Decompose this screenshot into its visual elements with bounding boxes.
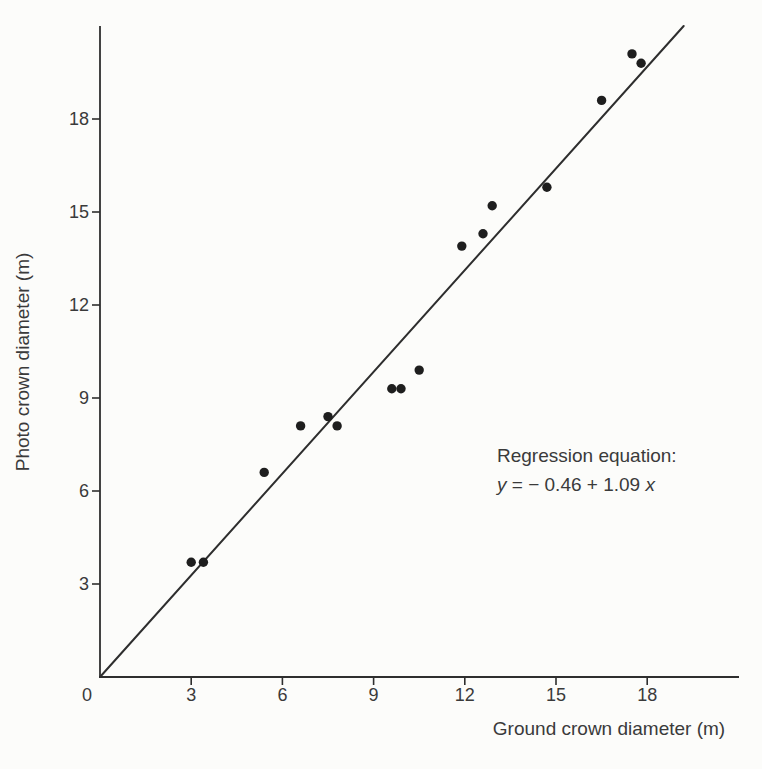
data-point bbox=[332, 421, 341, 430]
x-axis: 369121518 0 Ground crown diameter (m) bbox=[82, 677, 739, 739]
regression-line bbox=[100, 26, 684, 677]
regression-equation: y = − 0.46 + 1.09 x bbox=[495, 474, 656, 495]
scatter-plot: 369121518 Photo crown diameter (m) 36912… bbox=[0, 0, 762, 769]
x-tick-label: 6 bbox=[277, 685, 287, 705]
figure-page: 369121518 Photo crown diameter (m) 36912… bbox=[0, 0, 762, 769]
data-point bbox=[636, 59, 645, 68]
x-tick-label: 3 bbox=[186, 685, 196, 705]
x-tick-label: 18 bbox=[637, 685, 657, 705]
equation-x-var: x bbox=[644, 474, 656, 495]
data-point bbox=[296, 421, 305, 430]
data-point bbox=[415, 365, 424, 374]
regression-annotation: Regression equation: y = − 0.46 + 1.09 x bbox=[495, 445, 677, 495]
data-point bbox=[323, 412, 332, 421]
y-tick-label: 3 bbox=[79, 574, 89, 594]
x-axis-title: Ground crown diameter (m) bbox=[493, 718, 725, 739]
regression-annotation-title: Regression equation: bbox=[497, 445, 677, 466]
y-tick-label: 6 bbox=[79, 481, 89, 501]
data-point bbox=[199, 558, 208, 567]
y-tick-label: 9 bbox=[79, 388, 89, 408]
x-tick-label: 12 bbox=[455, 685, 475, 705]
y-tick-label: 15 bbox=[69, 202, 89, 222]
y-ticks: 369121518 bbox=[69, 109, 100, 594]
equation-y-var: y bbox=[495, 474, 508, 495]
origin-tick-label: 0 bbox=[82, 685, 92, 705]
y-axis-title: Photo crown diameter (m) bbox=[12, 253, 33, 472]
x-tick-label: 15 bbox=[546, 685, 566, 705]
data-point bbox=[488, 201, 497, 210]
x-tick-label: 9 bbox=[369, 685, 379, 705]
data-point bbox=[187, 558, 196, 567]
data-point bbox=[457, 241, 466, 250]
data-point bbox=[478, 229, 487, 238]
data-point bbox=[396, 384, 405, 393]
x-ticks: 369121518 bbox=[186, 677, 657, 705]
data-point bbox=[260, 468, 269, 477]
data-point bbox=[542, 183, 551, 192]
y-tick-label: 18 bbox=[69, 109, 89, 129]
equation-middle: = − 0.46 + 1.09 bbox=[512, 474, 640, 495]
data-point bbox=[597, 96, 606, 105]
y-tick-label: 12 bbox=[69, 295, 89, 315]
data-point bbox=[627, 49, 636, 58]
y-axis: 369121518 Photo crown diameter (m) bbox=[12, 26, 100, 678]
data-point bbox=[387, 384, 396, 393]
